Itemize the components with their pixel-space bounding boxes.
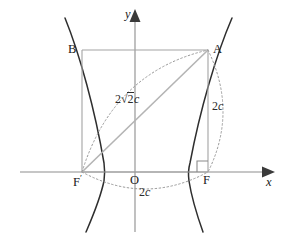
y-axis-arrowhead [130,9,141,22]
prime-mark: ′ [80,173,82,183]
measure-vertical-variable: c [218,99,223,113]
origin-label-O: O [130,174,139,187]
dotted-arcs-group [82,50,223,189]
point-label-B: B [68,43,76,56]
measure-focal-variable: c [145,185,150,199]
diagonal-Fprime-A [82,50,208,172]
geometry-figure: B A F′ F O y x 2√2c 2c 2c [0,0,288,237]
x-axis-label: x [266,176,272,189]
point-label-F-prime: F′ [73,174,82,189]
measure-label-vertical-side: 2c [212,100,223,112]
measure-label-focal-distance: 2c [139,186,150,198]
point-label-F-prime-text: F [73,175,80,189]
diagram-canvas [0,0,288,237]
point-label-F: F [203,174,210,187]
y-axis-label: y [125,8,131,21]
right-angle-marker-at-F [197,161,208,172]
point-label-A: A [213,43,222,56]
measure-diagonal-variable: c [134,92,139,106]
measure-label-diagonal: 2√2c [115,92,139,105]
